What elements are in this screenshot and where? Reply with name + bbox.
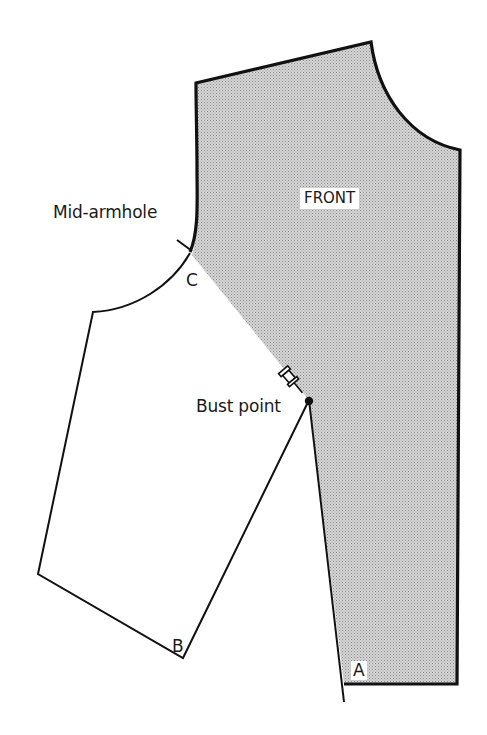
label-point-a: A bbox=[351, 661, 367, 680]
label-front: FRONT bbox=[300, 188, 359, 209]
label-point-c: C bbox=[186, 272, 198, 289]
label-mid-armhole: Mid-armhole bbox=[53, 204, 157, 221]
bodice-pattern-diagram bbox=[0, 0, 487, 735]
label-bust-point: Bust point bbox=[196, 398, 281, 415]
mid-armhole-notch bbox=[177, 240, 192, 251]
bust-point-dot bbox=[305, 397, 313, 405]
label-point-b: B bbox=[172, 638, 184, 655]
front-piece-shaded bbox=[192, 42, 460, 684]
